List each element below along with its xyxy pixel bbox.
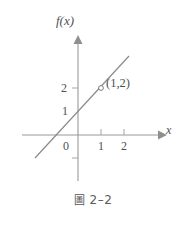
arrow-up-icon — [74, 35, 83, 44]
caption-number: 2–2 — [90, 193, 113, 207]
figure-caption: 圖 2–2 — [0, 194, 186, 206]
x-tick-label-0: 0 — [63, 140, 69, 152]
point-annotation-label: (1,2) — [106, 77, 130, 90]
plot-area: f(x) x 2 1 0 1 2 (1,2) — [0, 0, 186, 190]
coordinate-plot — [0, 0, 186, 190]
x-axis-label: x — [166, 124, 171, 136]
y-tick-label-1: 1 — [62, 105, 68, 117]
y-tick-label-2: 2 — [61, 82, 67, 94]
figure-container: f(x) x 2 1 0 1 2 (1,2) 圖 2–2 — [0, 0, 186, 226]
caption-glyph: 圖 — [74, 194, 86, 207]
x-tick-label-2: 2 — [121, 140, 127, 152]
function-line — [35, 56, 129, 158]
y-axis-label: f(x) — [56, 14, 74, 27]
x-tick-label-1: 1 — [98, 140, 104, 152]
open-circle-icon — [99, 86, 104, 91]
